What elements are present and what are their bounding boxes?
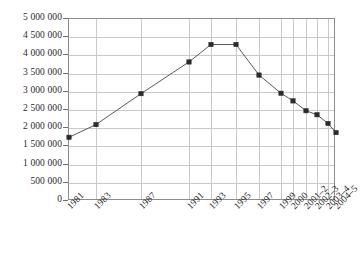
x-tick-label: 1997: [255, 190, 276, 211]
x-tick-label: 1991: [185, 190, 206, 211]
x-tick-label: 1987: [137, 190, 158, 211]
x-tick-label: 1993: [207, 190, 228, 211]
x-tick-label: 1981: [65, 190, 86, 211]
x-tick-label: 1983: [92, 190, 113, 211]
x-tick-label: 1995: [232, 190, 253, 211]
